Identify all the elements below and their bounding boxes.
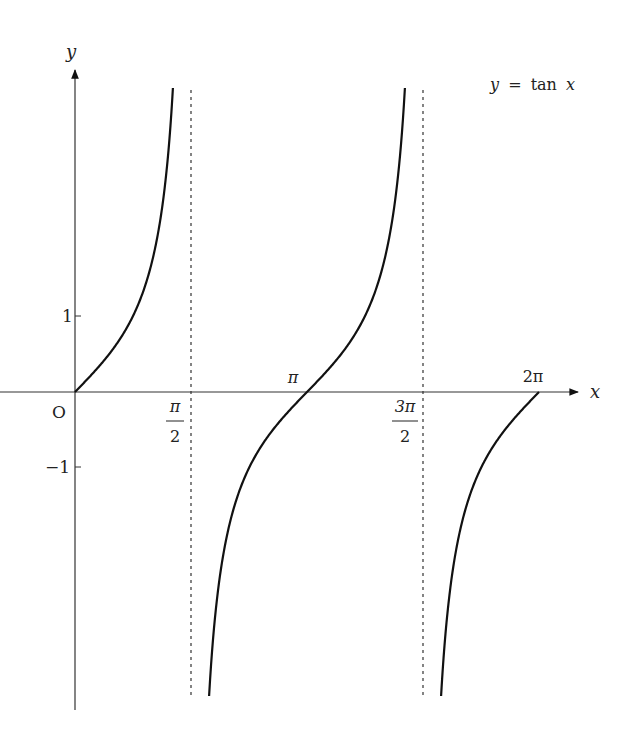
svg-text:y = tan x: y = tan x: [489, 75, 575, 94]
svg-text:3π: 3π: [395, 397, 416, 416]
svg-text:2: 2: [400, 427, 410, 446]
function-annotation: y = tan x: [489, 75, 575, 94]
tan-branch-3: [441, 392, 539, 696]
y-axis-label: y: [65, 41, 77, 62]
x-tick-label-2pi: 2π: [523, 367, 544, 386]
x-axis-label: x: [590, 381, 600, 402]
svg-text:2: 2: [170, 427, 180, 446]
x-tick-label-3pi-over-2: 3π 2: [392, 397, 418, 446]
x-tick-label-pi-over-2: π 2: [166, 397, 184, 446]
y-tick-label-1: 1: [62, 306, 73, 326]
y-tick-label-neg1: −1: [45, 457, 70, 477]
x-tick-label-pi: π: [287, 368, 299, 387]
tan-chart: y x O 1 −1 π 2 π 3π 2 2π y = tan x: [0, 0, 635, 746]
svg-text:π: π: [169, 397, 181, 416]
origin-label: O: [52, 402, 66, 422]
tan-branch-1: [75, 88, 173, 392]
